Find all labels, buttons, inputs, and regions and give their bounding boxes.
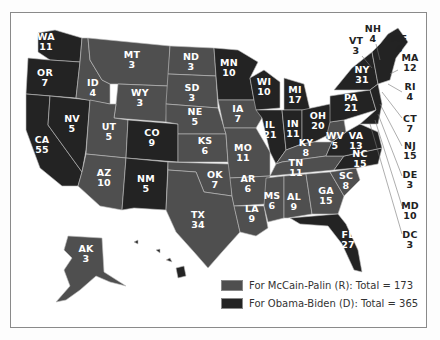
state-label-ny: NY 31 xyxy=(354,65,369,85)
state-label-ak: AK 3 xyxy=(78,244,93,264)
state-label-ma: MA 12 xyxy=(401,53,418,73)
mccain-swatch xyxy=(221,280,243,291)
state-label-de: DE 3 xyxy=(403,170,418,190)
state-label-ca: CA 55 xyxy=(35,135,50,155)
state-label-ri: RI 4 xyxy=(404,82,415,102)
state-label-nd: ND 3 xyxy=(183,52,199,72)
state-label-nh: NH 4 xyxy=(365,24,381,44)
state-label-ut: UT 5 xyxy=(102,122,117,142)
state-label-fl: FL 27 xyxy=(341,230,355,250)
state-label-in: IN 11 xyxy=(286,119,300,139)
state-label-id: ID 4 xyxy=(87,78,99,98)
state-label-ms: MS 6 xyxy=(264,191,281,211)
state-label-mn: MN 10 xyxy=(220,58,238,78)
state-label-mo: MO 11 xyxy=(234,143,252,163)
state-label-hi: HI 4 xyxy=(155,254,167,274)
state-label-tx: TX 34 xyxy=(191,210,205,230)
state-label-or: OR 7 xyxy=(37,68,53,88)
state-label-ct: CT 7 xyxy=(403,114,417,134)
state-label-vt: VT 3 xyxy=(349,36,363,56)
state-label-co: CO 9 xyxy=(144,128,159,148)
state-label-va: VA 13 xyxy=(349,131,363,151)
state-label-ar: AR 6 xyxy=(240,174,255,194)
state-label-wa: WA 11 xyxy=(37,32,55,52)
state-label-me: ME 4 xyxy=(391,34,407,54)
state-label-md: MD 10 xyxy=(401,201,419,221)
state-label-ia: IA 7 xyxy=(232,104,243,124)
state-label-wi: WI 10 xyxy=(257,77,271,97)
state-label-nm: NM 5 xyxy=(137,174,155,194)
state-label-nc: NC 15 xyxy=(352,149,367,169)
state-label-ky: KY 8 xyxy=(299,138,314,158)
state-label-ga: GA 15 xyxy=(318,186,334,206)
state-label-ok: OK 7 xyxy=(207,170,223,190)
state-label-nv: NV 5 xyxy=(64,114,80,134)
legend-label: For Obama-Biden (D): Total = 365 xyxy=(249,298,418,309)
state-label-wy: WY 3 xyxy=(131,88,149,108)
state-label-mt: MT 3 xyxy=(124,50,140,70)
legend-label: For McCain-Palin (R): Total = 173 xyxy=(249,280,413,291)
obama-swatch xyxy=(221,298,243,309)
state-label-ne: NE 5 xyxy=(188,107,203,127)
state-label-mi: MI 17 xyxy=(288,85,302,105)
state-label-ks: KS 6 xyxy=(198,136,213,156)
state-label-wv: WV 5 xyxy=(326,131,344,151)
state-label-sc: SC 8 xyxy=(339,171,353,191)
legend: For McCain-Palin (R): Total = 173 For Ob… xyxy=(221,276,418,312)
state-or xyxy=(26,58,80,98)
state-label-az: AZ 10 xyxy=(97,168,112,188)
legend-item-mccain: For McCain-Palin (R): Total = 173 xyxy=(221,276,418,294)
state-label-nj: NJ 15 xyxy=(403,141,417,161)
legend-item-obama: For Obama-Biden (D): Total = 365 xyxy=(221,294,418,312)
state-label-la: LA 9 xyxy=(245,204,259,224)
state-label-dc: DC 3 xyxy=(402,230,417,250)
state-label-tn: TN 11 xyxy=(289,158,304,178)
state-label-oh: OH 20 xyxy=(310,111,326,131)
state-label-sd: SD 3 xyxy=(184,83,199,103)
state-label-pa: PA 21 xyxy=(344,93,358,113)
state-label-al: AL 9 xyxy=(287,192,301,212)
state-label-il: IL 21 xyxy=(263,120,277,140)
